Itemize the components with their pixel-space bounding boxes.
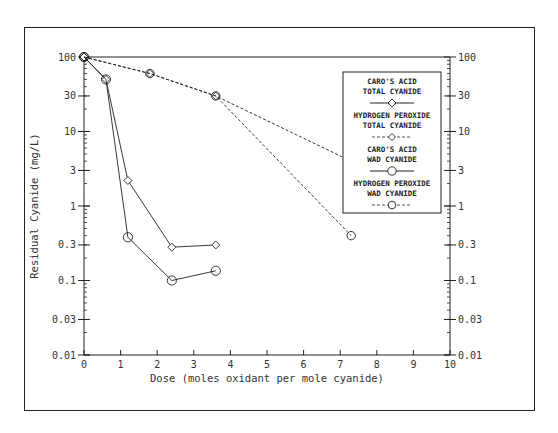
series-2 xyxy=(79,52,220,285)
chart: 0123456789101001003030101033110.30.30.10… xyxy=(0,0,558,433)
x-tick-label: 2 xyxy=(154,359,160,370)
y-tick-label-left: 10 xyxy=(64,126,76,137)
series-3 xyxy=(80,53,356,240)
x-tick-label: 6 xyxy=(301,359,307,370)
y-tick-label-right: 10 xyxy=(458,126,470,137)
diamond-marker-icon xyxy=(212,241,220,249)
y-tick-label-left: 100 xyxy=(58,52,76,63)
y-tick-label-right: 1 xyxy=(458,201,464,212)
diamond-marker-icon xyxy=(168,243,176,251)
legend-2-line1: CARO'S ACID xyxy=(367,145,417,154)
circle-marker-icon xyxy=(388,201,396,209)
x-tick-label: 10 xyxy=(444,359,456,370)
legend-0-line1: CARO'S ACID xyxy=(367,77,417,86)
y-tick-label-left: 0.03 xyxy=(52,314,76,325)
y-tick-label-left: 3 xyxy=(70,165,76,176)
legend-0-line2: TOTAL CYANIDE xyxy=(363,87,422,96)
series-layer xyxy=(79,52,355,285)
x-tick-label: 9 xyxy=(410,359,416,370)
y-tick-label-right: 100 xyxy=(458,52,476,63)
y-tick-label-left: 0.01 xyxy=(52,350,76,361)
circle-marker-icon xyxy=(388,167,396,175)
legend-3-line1: HYDROGEN PEROXIDE xyxy=(354,179,431,188)
legend-3-line2: WAD CYANIDE xyxy=(367,189,417,198)
y-tick-label-left: 1 xyxy=(70,201,76,212)
y-tick-label-left: 30 xyxy=(64,90,76,101)
x-tick-label: 8 xyxy=(374,359,380,370)
x-tick-label: 1 xyxy=(118,359,124,370)
x-tick-label: 5 xyxy=(264,359,270,370)
y-tick-label-left: 0.1 xyxy=(58,275,76,286)
legend-2-line2: WAD CYANIDE xyxy=(367,155,417,164)
x-tick-label: 4 xyxy=(227,359,233,370)
legend-1-line2: TOTAL CYANIDE xyxy=(363,121,422,130)
x-tick-label: 7 xyxy=(337,359,343,370)
x-tick-label: 3 xyxy=(191,359,197,370)
y-tick-label-right: 0.3 xyxy=(458,239,476,250)
legend: CARO'S ACID TOTAL CYANIDE HYDROGEN PEROX… xyxy=(343,72,441,213)
series-0 xyxy=(80,53,220,251)
y-tick-label-left: 0.3 xyxy=(58,239,76,250)
y-tick-label-right: 30 xyxy=(458,90,470,101)
x-tick-label: 0 xyxy=(81,359,87,370)
x-axis-title: Dose (moles oxidant per mole cyanide) xyxy=(150,372,384,384)
y-tick-label-right: 0.03 xyxy=(458,314,482,325)
y-tick-label-right: 3 xyxy=(458,165,464,176)
y-tick-label-right: 0.01 xyxy=(458,350,482,361)
diamond-marker-icon xyxy=(124,176,132,184)
legend-1-line1: HYDROGEN PEROXIDE xyxy=(354,111,431,120)
y-axis-title: Residual Cyanide (mg/L) xyxy=(28,133,40,278)
y-tick-label-right: 0.1 xyxy=(458,275,476,286)
